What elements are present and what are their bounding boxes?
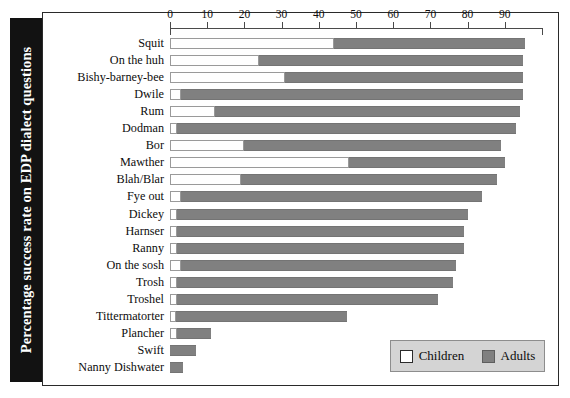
bar-segment-children [170, 55, 259, 66]
bar-row: Harnser [0, 225, 570, 242]
bar-segment-adults [181, 260, 456, 271]
legend-label: Adults [501, 348, 536, 364]
category-label: Tittermatorter [44, 310, 164, 323]
category-label: Bishy-barney-bee [44, 71, 164, 84]
bar-segment-children [170, 140, 244, 151]
category-label: Rum [44, 105, 164, 118]
chart-legend: ChildrenAdults [390, 340, 545, 372]
legend-label: Children [419, 348, 465, 364]
legend-item[interactable]: Children [400, 348, 465, 364]
legend-item[interactable]: Adults [482, 348, 536, 364]
bar-rows: SquitOn the huhBishy-barney-beeDwileRumD… [0, 0, 570, 398]
bar-row: Bishy-barney-bee [0, 71, 570, 88]
bar-row: Ranny [0, 242, 570, 259]
legend-swatch-children [400, 350, 413, 363]
category-label: On the huh [44, 54, 164, 67]
bar-row: Tittermatorter [0, 310, 570, 327]
category-label: Ranny [44, 242, 164, 255]
bar-segment-adults [177, 209, 467, 220]
bar-segment-adults [177, 243, 463, 254]
bar-row: Blah/Blar [0, 173, 570, 190]
category-label: Blah/Blar [44, 173, 164, 186]
legend-swatch-adults [482, 350, 495, 363]
bar-segment-adults [177, 226, 463, 237]
bar-segment-children [170, 209, 177, 220]
bar-segment-children [170, 243, 177, 254]
bar-row: Squit [0, 37, 570, 54]
bar-segment-children [170, 260, 181, 271]
bar-row: On the huh [0, 54, 570, 71]
bar-row: Dickey [0, 208, 570, 225]
bar-segment-adults [349, 157, 505, 168]
category-label: Nanny Dishwater [44, 361, 164, 374]
bar-segment-children [170, 226, 177, 237]
category-label: Dodman [44, 122, 164, 135]
bar-segment-adults [259, 55, 523, 66]
bar-segment-adults [181, 191, 482, 202]
bar-segment-children [170, 123, 177, 134]
category-label: Harnser [44, 225, 164, 238]
bar-segment-children [170, 157, 349, 168]
bar-row: Dwile [0, 88, 570, 105]
bar-row: Troshel [0, 293, 570, 310]
bar-segment-adults [215, 106, 520, 117]
bar-segment-adults [244, 140, 501, 151]
bar-segment-adults [334, 38, 526, 49]
bar-segment-children [170, 38, 334, 49]
category-label: Mawther [44, 156, 164, 169]
bar-segment-children [170, 277, 177, 288]
bar-row: Rum [0, 105, 570, 122]
category-label: Fye out [44, 190, 164, 203]
bar-segment-adults [285, 72, 523, 83]
bar-segment-children [170, 106, 215, 117]
bar-segment-adults [177, 294, 437, 305]
category-label: Swift [44, 344, 164, 357]
category-label: Squit [44, 37, 164, 50]
chart-figure: Percentage success rate on EDP dialect q… [0, 0, 570, 398]
bar-row: Dodman [0, 122, 570, 139]
bar-segment-children [170, 72, 285, 83]
category-label: On the sosh [44, 259, 164, 272]
bar-segment-adults [241, 174, 498, 185]
bar-row: Fye out [0, 190, 570, 207]
bar-segment-adults [177, 277, 452, 288]
category-label: Trosh [44, 276, 164, 289]
bar-segment-adults [177, 328, 210, 339]
bar-segment-children [170, 191, 181, 202]
bar-row: Trosh [0, 276, 570, 293]
bar-segment-children [170, 328, 177, 339]
bar-row: Bor [0, 139, 570, 156]
bar-segment-adults [177, 123, 516, 134]
category-label: Dickey [44, 208, 164, 221]
bar-segment-children [170, 294, 177, 305]
bar-segment-adults [170, 362, 183, 373]
category-label: Dwile [44, 88, 164, 101]
bar-segment-adults [181, 89, 523, 100]
bar-segment-adults [176, 311, 347, 322]
bar-row: Mawther [0, 156, 570, 173]
bar-segment-adults [170, 345, 196, 356]
category-label: Troshel [44, 293, 164, 306]
bar-segment-children [170, 174, 241, 185]
category-label: Bor [44, 139, 164, 152]
category-label: Plancher [44, 327, 164, 340]
bar-row: On the sosh [0, 259, 570, 276]
bar-segment-children [170, 89, 181, 100]
